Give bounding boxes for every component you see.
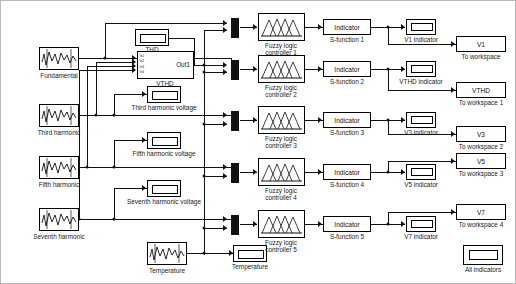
arrow-mux5-in2 — [223, 225, 227, 231]
indicator-block-4[interactable] — [406, 164, 436, 180]
display-block-third-harmonic-voltage[interactable] — [147, 86, 181, 103]
arrow-ws3-in — [451, 131, 455, 137]
fuzzy-logic-controller-1[interactable] — [258, 13, 305, 41]
arrow-sf5-in — [318, 221, 322, 227]
wire-fundamental-up — [105, 23, 106, 59]
fuzzy-label-2-line2: controller 2 — [265, 91, 297, 98]
subsystem-block-vthd[interactable]: Out1 In1 In2 In3 In4 — [137, 51, 194, 79]
arrow-fuzzy2-in — [253, 66, 257, 72]
wire-row4-ws-h — [388, 161, 456, 162]
wire-third-to-vthd — [96, 62, 132, 63]
display-block-temperature[interactable] — [233, 245, 267, 262]
junction-fundamental — [104, 57, 107, 60]
fuzzy-label-3-line2: controller 3 — [265, 142, 297, 149]
fuzzy-logic-controller-3[interactable] — [258, 106, 305, 134]
indicator-block-1[interactable] — [406, 19, 436, 35]
subsystem-in-port-1-label: In1 — [140, 55, 144, 59]
fuzzy-logic-controller-4[interactable] — [258, 158, 305, 186]
mux-block-4[interactable] — [231, 163, 239, 183]
signal-generator-icon — [148, 243, 186, 264]
source-label-temperature: Temperature — [149, 267, 185, 274]
to-workspace-block-4[interactable]: V5 — [456, 153, 506, 169]
to-workspace-label-1: To workspace — [461, 53, 500, 60]
membership-function-icon — [259, 56, 304, 82]
arrow-fuzzy3-in — [253, 117, 257, 123]
arrow-mux3-in2 — [223, 121, 227, 127]
sfunction-block-2[interactable]: Indicator — [323, 61, 371, 77]
fuzzy-logic-controller-2[interactable] — [258, 55, 305, 83]
signal-generator-icon — [40, 209, 78, 230]
arrow-ind1-in — [401, 24, 405, 30]
source-block-temperature[interactable] — [147, 242, 187, 265]
display-icon — [411, 116, 433, 124]
fuzzy-label-4-line2: controller 4 — [265, 194, 297, 201]
source-block-fundamental[interactable] — [39, 47, 79, 70]
display-block-thd[interactable] — [135, 29, 169, 46]
wire-vthd-bus-up — [204, 30, 205, 66]
display-icon — [152, 137, 178, 146]
wire-temp-main — [187, 253, 235, 254]
to-workspace-label-5: To workspace 4 — [459, 221, 503, 228]
arrow-sf4-in — [318, 169, 322, 175]
wire-seventh-to-vthd — [79, 70, 132, 71]
wire-row5-ws-v — [388, 212, 389, 225]
source-label-third-harmonic: Third harmonic — [38, 129, 81, 136]
indicator-block-2[interactable] — [406, 61, 436, 77]
membership-function-icon — [259, 14, 304, 40]
sfunction-label-5: S-function 5 — [330, 233, 364, 240]
arrow-ind2-in — [401, 66, 405, 72]
mux-block-5[interactable] — [231, 215, 239, 235]
display-block-fifth-harmonic-voltage[interactable] — [147, 132, 181, 149]
wire-fifth-main — [79, 167, 231, 168]
indicator-label-1: V1 indicator — [404, 36, 438, 43]
to-workspace-block-2[interactable]: VTHD — [456, 82, 506, 98]
sfunction-block-3[interactable]: Indicator — [323, 112, 371, 128]
mux-block-1[interactable] — [231, 18, 239, 38]
mux-block-3[interactable] — [231, 111, 239, 131]
wire-row2-ws-h — [388, 90, 456, 91]
display-label-temperature: Temperature — [232, 263, 268, 270]
wire-seventh-scope-v — [114, 188, 115, 220]
fuzzy-logic-controller-5[interactable] — [258, 210, 305, 238]
wire-vthd-out — [194, 65, 224, 66]
indicator-block-5[interactable] — [406, 216, 436, 232]
to-workspace-label-4: To workspace 3 — [459, 170, 503, 177]
arrow-ind5-in — [401, 221, 405, 227]
all-indicators-block[interactable] — [463, 245, 503, 265]
arrow-sf1-in — [318, 24, 322, 30]
wire-thd-h — [166, 38, 195, 39]
to-workspace-block-1[interactable]: V1 — [456, 36, 506, 52]
wire-row4-ws-v — [388, 161, 389, 173]
indicator-block-3[interactable] — [406, 112, 436, 128]
indicator-label-2: VTHD indicator — [399, 78, 442, 85]
sfunction-label-1: S-function 1 — [330, 36, 364, 43]
display-block-seventh-harmonic-voltage[interactable] — [147, 180, 181, 197]
source-block-third-harmonic[interactable] — [39, 104, 79, 127]
arrow-mux1-in1 — [223, 20, 227, 26]
arrow-ws5-in — [451, 209, 455, 215]
indicator-label-3: V3 indicator — [404, 129, 438, 136]
junction-temp — [203, 252, 206, 255]
sfunction-block-5[interactable]: Indicator — [323, 216, 371, 232]
arrow-mux2-in2 — [223, 69, 227, 75]
mux-block-2[interactable] — [231, 60, 239, 80]
sfunction-block-1[interactable]: Indicator — [323, 19, 371, 35]
source-block-seventh-harmonic[interactable] — [39, 208, 79, 231]
indicator-label-5: V7 indicator — [404, 233, 438, 240]
sfunction-block-4[interactable]: Indicator — [323, 164, 371, 180]
source-block-fifth-harmonic[interactable] — [39, 156, 79, 179]
to-workspace-block-3[interactable]: V3 — [456, 126, 506, 142]
arrow-fuzzy5-in — [253, 221, 257, 227]
source-label-seventh-harmonic: Seventh harmonic — [33, 233, 85, 240]
arrow-third-scope — [142, 91, 146, 97]
fuzzy-label-5-line2: controller 5 — [265, 246, 297, 253]
to-workspace-block-5[interactable]: V7 — [456, 204, 506, 220]
display-icon — [238, 250, 264, 259]
to-workspace-label-3: To workspace 2 — [459, 143, 503, 150]
arrow-mux1-in2 — [223, 27, 227, 33]
arrow-mux4-in2 — [223, 173, 227, 179]
signal-generator-icon — [40, 157, 78, 178]
membership-function-icon — [259, 211, 304, 237]
wire-fifth-scope-v — [114, 140, 115, 168]
signal-generator-icon — [40, 105, 78, 126]
